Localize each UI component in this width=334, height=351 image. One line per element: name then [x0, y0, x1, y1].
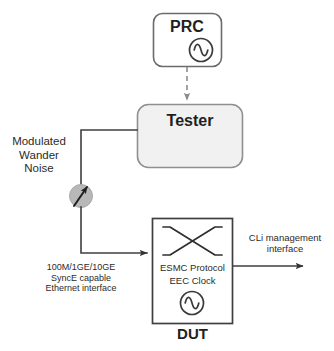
ethernet-interface-label: 100M/1GE/10GE SyncE capable Ethernet int…: [17, 262, 145, 294]
tester-label: Tester: [138, 112, 242, 131]
injector-to-dut-link: [81, 207, 147, 253]
noise-injection-node-icon[interactable]: [70, 185, 93, 208]
cli-interface-label: CLi management interface: [240, 232, 330, 254]
tester-to-injector-link: [81, 130, 137, 186]
dut-inner-label-2: EEC Clock: [153, 275, 232, 286]
diagram-canvas: PRC Tester Modulated Wander Noise 100M/1…: [0, 0, 334, 351]
dut-inner-label-1: ESMC Protocol: [153, 262, 232, 273]
dut-caption-label: DUT: [152, 325, 233, 343]
wander-noise-label: Modulated Wander Noise: [6, 135, 72, 176]
prc-label: PRC: [153, 18, 221, 37]
